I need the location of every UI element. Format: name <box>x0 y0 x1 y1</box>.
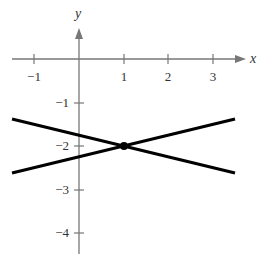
y-tick-label: −2 <box>55 138 69 153</box>
x-tick-label: 3 <box>210 69 217 84</box>
y-tick-label: −4 <box>55 225 69 240</box>
x-tick-label: −1 <box>27 69 41 84</box>
y-tick-label: −3 <box>55 182 69 197</box>
y-tick-label: −1 <box>55 95 69 110</box>
y-axis-label: y <box>73 6 82 21</box>
x-axis-label: x <box>249 51 257 66</box>
intersection-point <box>120 142 128 150</box>
x-tick-label: 1 <box>121 69 128 84</box>
chart-canvas: x y −1 1 2 3 −1 −2 −3 −4 <box>0 0 259 260</box>
y-axis-arrow-icon <box>75 28 83 39</box>
x-axis-arrow-icon <box>235 55 246 63</box>
x-tick-label: 2 <box>165 69 172 84</box>
